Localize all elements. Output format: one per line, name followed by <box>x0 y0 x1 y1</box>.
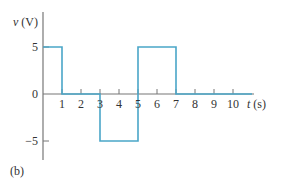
y-axis-title: v (V) <box>13 15 38 29</box>
x-tick-label: 2 <box>78 97 84 111</box>
x-tick-label: 8 <box>192 97 198 111</box>
x-tick-label: 1 <box>59 97 65 111</box>
x-tick-label: 9 <box>211 97 217 111</box>
x-tick-label: 6 <box>154 97 160 111</box>
y-tick-label: 0 <box>32 87 38 101</box>
y-tick-label: −5 <box>25 134 38 148</box>
x-tick-label: 4 <box>116 97 122 111</box>
axes <box>43 12 254 160</box>
x-tick-label: 10 <box>227 97 239 111</box>
x-tick-label: 7 <box>173 97 179 111</box>
x-tick-label: 5 <box>135 97 141 111</box>
y-tick-label: 5 <box>32 40 38 54</box>
x-axis-title: t (s) <box>247 97 266 111</box>
x-tick-label: 3 <box>97 97 103 111</box>
panel-label: (b) <box>10 164 24 178</box>
chart: 1234567891050−5v (V)t (s)(b) <box>0 0 282 178</box>
labels-layer: 1234567891050−5v (V)t (s)(b) <box>10 15 266 178</box>
